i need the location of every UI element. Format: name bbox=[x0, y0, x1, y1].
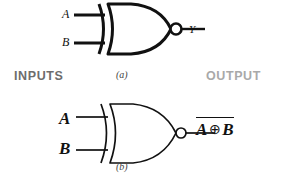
gate-b-inversion-bubble bbox=[176, 128, 186, 138]
gate-b-input-a-label: A bbox=[59, 110, 70, 127]
figure-canvas: A B Y A B A⊕B INPUTS OUTPUT (a) (b) bbox=[0, 0, 282, 187]
operand-right: B bbox=[222, 120, 234, 139]
inputs-heading: INPUTS bbox=[14, 70, 63, 83]
gate-b-body bbox=[110, 104, 176, 163]
expression-body: A⊕B bbox=[196, 120, 234, 140]
caption-a: (a) bbox=[116, 70, 128, 80]
gate-b-xor-arc bbox=[101, 104, 107, 163]
caption-b: (b) bbox=[116, 162, 128, 172]
gate-b-input-b-label: B bbox=[59, 140, 70, 157]
gate-b-output-expression: A⊕B bbox=[196, 117, 234, 140]
operand-left: A bbox=[196, 120, 208, 139]
gate-a-input-b-label: B bbox=[62, 36, 69, 48]
gate-a-output-label: Y bbox=[189, 24, 195, 35]
gate-b-drawing bbox=[0, 0, 282, 187]
overbar bbox=[196, 117, 234, 118]
xor-operator-icon: ⊕ bbox=[208, 122, 223, 137]
gate-a-input-a-label: A bbox=[62, 8, 69, 20]
output-heading: OUTPUT bbox=[206, 70, 261, 83]
